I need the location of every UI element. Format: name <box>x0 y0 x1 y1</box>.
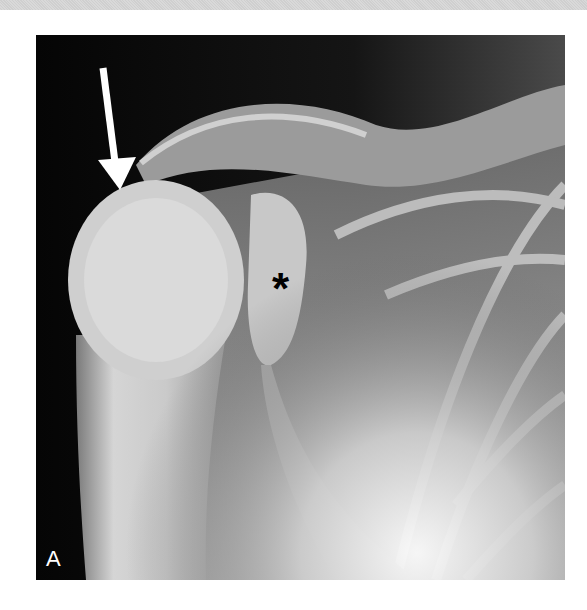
xray-image: * A <box>36 35 565 580</box>
asterisk-annotation: * <box>272 267 289 311</box>
panel-label: A <box>46 546 61 572</box>
xray-drawing <box>36 35 565 580</box>
top-border-strip <box>0 0 587 10</box>
